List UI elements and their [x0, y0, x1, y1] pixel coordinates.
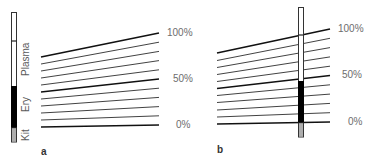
plasma-label: Plasma	[20, 42, 31, 76]
line-30pct	[217, 94, 330, 102]
ery-label: Ery	[20, 97, 31, 112]
line-20pct	[41, 107, 159, 113]
line-10pct	[41, 116, 159, 120]
hematocrit-nomogram-figure: Plasma Ery Kit 100% 50% 0% a	[0, 0, 370, 162]
line-0pct	[41, 125, 159, 127]
kit-label: Kit	[20, 129, 31, 141]
label-50pct-a: 50%	[173, 73, 193, 84]
label-0pct-b: 0%	[348, 116, 363, 127]
tube-a	[11, 13, 17, 143]
line-60pct	[41, 70, 159, 85]
line-70pct	[41, 61, 159, 78]
nomogram-lines-a	[41, 33, 159, 127]
tube-ery-segment	[11, 86, 17, 128]
label-100pct-b: 100%	[338, 23, 364, 34]
panel-label-a: a	[41, 146, 47, 157]
nomogram-lines-b	[217, 29, 330, 124]
label-100pct-a: 100%	[167, 27, 193, 38]
panel-b: 100% 50% 0% b	[217, 8, 364, 156]
line-80pct	[41, 51, 159, 71]
label-0pct-a: 0%	[176, 119, 191, 130]
line-0pct	[217, 122, 330, 124]
tube-plasma-segment	[299, 8, 304, 82]
line-20pct	[217, 103, 330, 110]
line-70pct	[217, 57, 330, 75]
tube-ery-segment	[298, 81, 304, 123]
tube-plasma-segment	[12, 13, 17, 88]
tube-b	[298, 8, 304, 138]
panel-label-b: b	[217, 144, 223, 155]
line-30pct	[41, 97, 159, 106]
line-60pct	[217, 66, 330, 81]
line-10pct	[217, 113, 330, 117]
panel-a: Plasma Ery Kit 100% 50% 0% a	[11, 13, 193, 158]
label-50pct-b: 50%	[342, 69, 362, 80]
